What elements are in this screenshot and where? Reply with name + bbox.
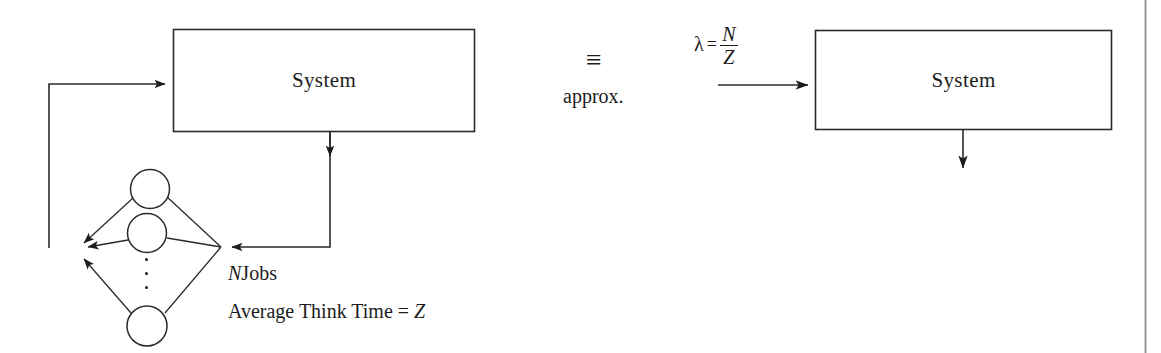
terminal-ellipsis-dot — [145, 258, 148, 261]
fraction-numerator: N — [720, 24, 737, 45]
terminal-ellipsis-dot — [145, 286, 148, 289]
terminal-edge-left-mid — [88, 240, 128, 247]
figure-canvas: System ≡ approx. λ = N Z System NJobs Av… — [0, 0, 1161, 353]
jobs-count-variable: N — [228, 262, 241, 284]
think-time-label: Average Think Time = Z — [228, 300, 425, 323]
jobs-count-label: NJobs — [228, 262, 277, 285]
terminal-circle-3 — [127, 306, 167, 346]
terminal-edge-right-bottom — [165, 247, 221, 313]
think-time-text: Average Think Time = — [228, 300, 414, 322]
jobs-count-word: Jobs — [241, 262, 277, 284]
think-time-variable: Z — [414, 300, 425, 322]
arrival-rate-formula: λ = N Z — [694, 24, 738, 67]
diagram-vector-layer — [0, 0, 1161, 353]
terminal-circle-2 — [128, 214, 167, 253]
right-system-box-label: System — [815, 68, 1112, 93]
right-open-model — [718, 31, 1112, 169]
terminal-edge-left-bottom — [84, 259, 131, 313]
terminal-circle-1 — [131, 170, 170, 209]
system-departure-path — [232, 131, 330, 247]
equivalence-symbol: ≡ — [586, 46, 602, 74]
n-over-z-fraction: N Z — [720, 24, 738, 67]
terminal-edge-left-top — [84, 198, 133, 243]
terminal-ellipsis-dot — [145, 272, 148, 275]
left-system-box-label: System — [173, 68, 475, 93]
lambda-symbol: λ — [694, 33, 704, 58]
equals-sign: = — [707, 34, 717, 57]
approx-caption: approx. — [563, 85, 624, 108]
fraction-denominator: Z — [721, 46, 736, 67]
